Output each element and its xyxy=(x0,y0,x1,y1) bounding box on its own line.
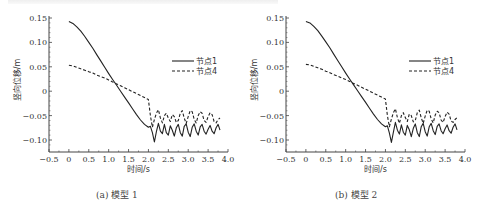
legend: 节点1节点4 xyxy=(409,57,454,76)
chart-a: −0.500.51.01.52.02.53.03.54.00.150.100.0… xyxy=(12,14,234,174)
caption-a: (a) 模型 1 xyxy=(96,188,138,201)
series-node1-line xyxy=(306,21,457,142)
legend-label: 节点4 xyxy=(196,67,217,76)
legend-label: 节点1 xyxy=(433,57,454,66)
series-node1-line xyxy=(69,21,220,142)
x-tick-label: 0.5 xyxy=(82,155,95,164)
x-axis-label: 时间/s xyxy=(127,164,150,174)
caption-b: (b) 模型 2 xyxy=(335,188,377,201)
y-tick-label: 0 xyxy=(279,87,284,96)
chart-b: −0.500.51.01.52.02.53.03.54.00.150.100.0… xyxy=(249,14,471,174)
x-tick-label: −0.5 xyxy=(39,155,58,164)
x-tick-label: 0 xyxy=(303,155,308,164)
y-tick-label: 0 xyxy=(42,87,47,96)
y-tick-label: 0.10 xyxy=(29,38,47,47)
x-tick-label: 3.0 xyxy=(419,155,432,164)
y-tick-label: 0.15 xyxy=(29,14,47,23)
y-tick-label: 0.05 xyxy=(29,63,47,72)
y-tick-label: −0.05 xyxy=(259,112,284,121)
y-axis-label: 竖向位移/m xyxy=(12,59,22,102)
legend-label: 节点4 xyxy=(433,67,454,76)
y-tick-label: 0.10 xyxy=(266,38,284,47)
y-tick-label: 0.05 xyxy=(266,63,284,72)
x-axis-label: 时间/s xyxy=(364,164,387,174)
y-tick-label: −0.10 xyxy=(22,136,47,145)
x-tick-label: 4.0 xyxy=(459,155,472,164)
x-tick-label: 3.5 xyxy=(439,155,452,164)
x-tick-label: 2.5 xyxy=(162,155,175,164)
x-tick-label: 1.0 xyxy=(102,155,115,164)
x-tick-label: 1.5 xyxy=(359,155,372,164)
figure-canvas: −0.500.51.01.52.02.53.03.54.00.150.100.0… xyxy=(0,0,490,211)
x-tick-label: 2.5 xyxy=(399,155,412,164)
y-tick-label: 0.15 xyxy=(266,14,284,23)
y-tick-label: −0.05 xyxy=(22,112,47,121)
x-tick-label: 3.5 xyxy=(202,155,215,164)
x-tick-label: 2.0 xyxy=(142,155,155,164)
legend-label: 节点1 xyxy=(196,57,217,66)
x-tick-label: 4.0 xyxy=(222,155,235,164)
legend: 节点1节点4 xyxy=(172,57,217,76)
y-axis-label: 竖向位移/m xyxy=(249,59,259,102)
x-tick-label: 2.0 xyxy=(379,155,392,164)
x-tick-label: 1.0 xyxy=(339,155,352,164)
x-tick-label: −0.5 xyxy=(276,155,295,164)
x-tick-label: 0 xyxy=(66,155,71,164)
x-tick-label: 3.0 xyxy=(182,155,195,164)
y-tick-label: −0.10 xyxy=(259,136,284,145)
x-tick-label: 1.5 xyxy=(122,155,135,164)
x-tick-label: 0.5 xyxy=(319,155,332,164)
